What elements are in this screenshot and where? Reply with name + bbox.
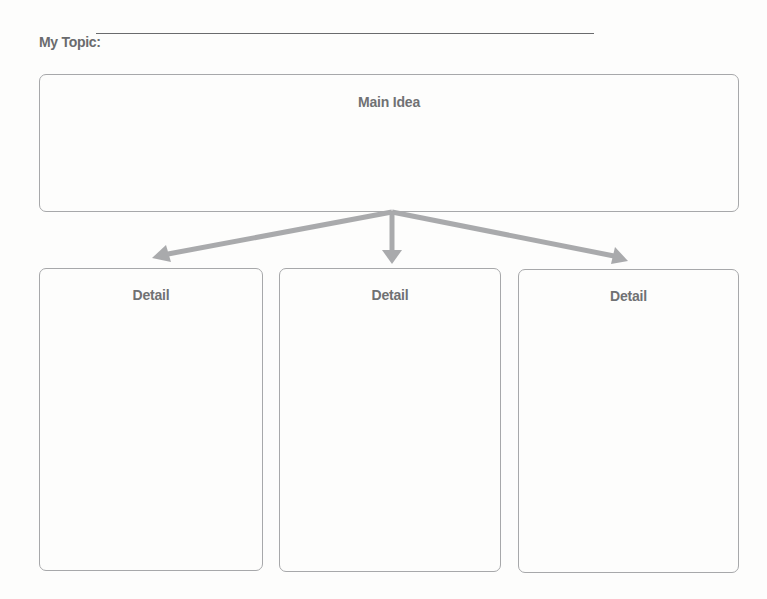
detail-title-1: Detail [40, 287, 262, 303]
detail-box-3: Detail [518, 269, 739, 573]
detail-input-3[interactable] [527, 314, 730, 564]
topic-row: My Topic: [39, 30, 101, 50]
detail-input-1[interactable] [48, 313, 254, 562]
arrow-left-head-icon [152, 245, 171, 262]
detail-title-2: Detail [280, 287, 500, 303]
main-idea-input[interactable] [48, 117, 730, 203]
topic-label: My Topic: [39, 34, 101, 50]
arrow-right-shaft [392, 212, 614, 256]
detail-title-3: Detail [519, 288, 738, 304]
topic-input[interactable] [96, 14, 594, 34]
main-idea-box: Main Idea [39, 74, 739, 212]
detail-input-2[interactable] [288, 313, 492, 563]
detail-box-1: Detail [39, 268, 263, 571]
arrow-center-head-icon [382, 250, 402, 264]
detail-box-2: Detail [279, 268, 501, 572]
arrow-left-shaft [168, 212, 392, 254]
main-idea-title: Main Idea [40, 94, 738, 110]
arrow-right-head-icon [611, 247, 628, 264]
